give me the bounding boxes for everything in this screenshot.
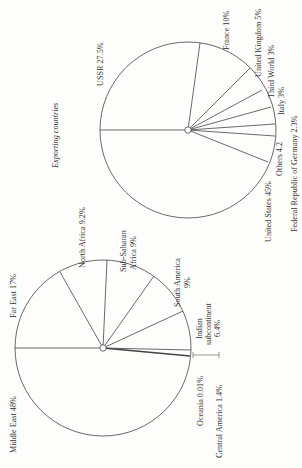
label-ussr: USSR 27.5% — [96, 42, 105, 86]
pie2-divider — [103, 260, 107, 348]
label-north-africa: North Africa 9.2% — [78, 207, 87, 268]
label-others: Others 4.2 — [275, 142, 284, 176]
pie1-divider — [188, 68, 250, 130]
pie2-divider — [60, 272, 103, 348]
label-central-america: Central America 1.4% — [215, 385, 224, 458]
pie2-leader-lines — [193, 352, 219, 358]
pie1-title: Exporting countries — [51, 103, 60, 169]
label-indian-line1: Indian — [195, 318, 204, 339]
label-indian-line3: 6.4% — [213, 320, 222, 337]
label-france: France 10% — [222, 10, 231, 50]
pie1-center — [185, 127, 191, 133]
label-far-east: Far East 17% — [9, 274, 18, 318]
pie1-divider — [188, 43, 200, 130]
pie-importing-regions — [15, 260, 191, 436]
label-italy: Italy 3% — [277, 87, 286, 115]
label-federal-republic-of-germany: Federal Republic of Germany 2.3% — [290, 115, 299, 232]
label-third-world: Third World 3% — [267, 45, 276, 98]
label-united-kingdom: United Kingdom 5% — [254, 9, 263, 77]
label-indian-line2: subcontinent — [204, 302, 213, 345]
label-oceania: Oceania 0.01% — [196, 376, 205, 426]
label-sub-saharan-line1: Sub-Saharan — [119, 230, 128, 272]
pie2-divider — [103, 276, 154, 348]
label-south-america-line1: South America — [173, 258, 182, 307]
pie-exporting-countries — [100, 42, 276, 218]
label-south-america-line2: 9% — [183, 277, 192, 288]
pie-charts-figure: Exporting countries USSR 27.5% France 10… — [0, 0, 302, 468]
label-sub-saharan-line2: Africa 9% — [129, 236, 138, 270]
pie1-divider — [188, 107, 271, 130]
pie1-divider — [188, 124, 275, 130]
pie2-divider — [103, 311, 183, 348]
label-middle-east: Middle East 48% — [9, 396, 18, 453]
pie1-divider — [188, 90, 262, 130]
pie2-center — [100, 345, 106, 351]
label-united-states: United States 45% — [264, 181, 273, 242]
